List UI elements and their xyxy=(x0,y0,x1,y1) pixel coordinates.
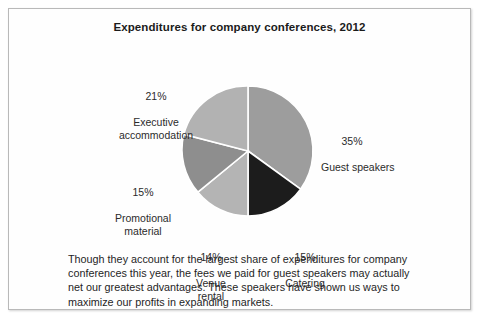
pie-label-promotional-material: 15% Promotional material xyxy=(87,173,199,238)
pie-label-executive-accommodation: 21% Executive accommodation xyxy=(97,77,215,142)
pie-label-promotional-material-name: Promotional material xyxy=(115,212,171,237)
pie-label-guest-speakers: 35% Guest speakers xyxy=(321,122,449,174)
page-title: Expenditures for company conferences, 20… xyxy=(9,21,470,33)
pie-label-promotional-material-value: 15% xyxy=(87,186,199,199)
pie-label-guest-speakers-name: Guest speakers xyxy=(321,161,395,173)
pie-label-guest-speakers-value: 35% xyxy=(321,135,383,148)
pie-chart: 21% Executive accommodation 35% Guest sp… xyxy=(9,35,472,245)
figure-caption: Though they account for the largest shar… xyxy=(68,252,464,309)
pie-label-executive-accommodation-value: 21% xyxy=(97,90,215,103)
pie-label-executive-accommodation-name: Executive accommodation xyxy=(119,116,193,141)
figure-container: Expenditures for company conferences, 20… xyxy=(8,8,471,310)
